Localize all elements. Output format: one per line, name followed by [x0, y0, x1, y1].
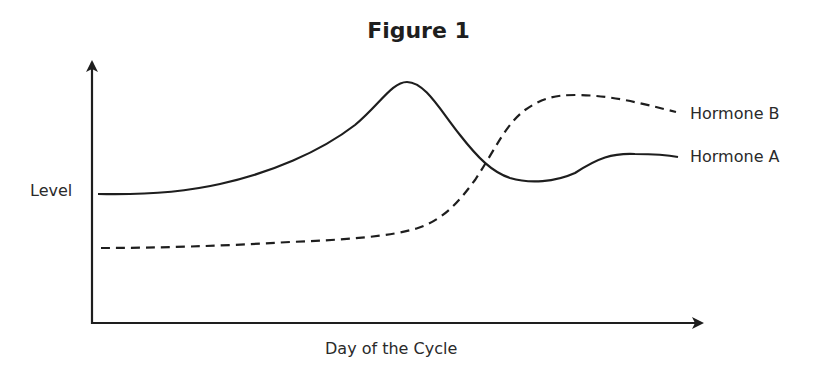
- x-axis-label: Day of the Cycle: [325, 339, 457, 358]
- hormone-a-line: [98, 82, 678, 194]
- hormone-b-line: [101, 95, 676, 248]
- legend-hormone-a: Hormone A: [690, 147, 780, 166]
- y-axis-label: Level: [30, 181, 72, 200]
- plot-area: [0, 0, 827, 374]
- legend-hormone-b: Hormone B: [690, 104, 780, 123]
